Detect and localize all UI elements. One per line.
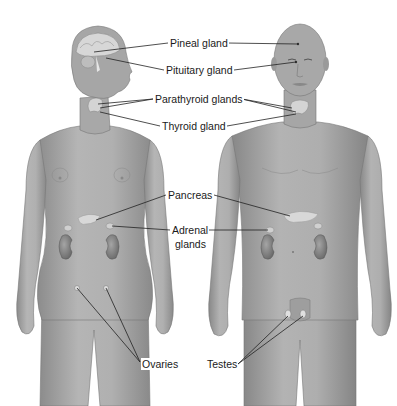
label-pineal-gland: Pineal gland bbox=[169, 37, 229, 49]
label-ovaries: Ovaries bbox=[141, 358, 179, 370]
label-thyroid-gland: Thyroid gland bbox=[161, 120, 227, 132]
label-pancreas: Pancreas bbox=[167, 189, 213, 201]
label-pituitary-gland: Pituitary gland bbox=[165, 64, 234, 76]
endocrine-diagram bbox=[0, 0, 397, 406]
label-adrenal-glands-line2: glands bbox=[174, 238, 207, 250]
label-parathyroid-glands: Parathyroid glands bbox=[154, 93, 244, 105]
label-adrenal-glands-line1: Adrenal bbox=[171, 224, 209, 236]
male-figure bbox=[209, 24, 392, 406]
label-testes: Testes bbox=[206, 358, 238, 370]
female-figure bbox=[17, 26, 174, 406]
